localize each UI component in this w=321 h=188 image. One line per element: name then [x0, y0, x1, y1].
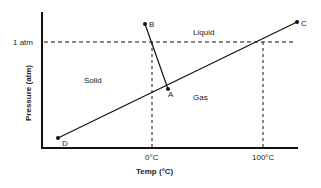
x-axis-label: Temp (°C): [136, 167, 174, 176]
curve-a-b: [145, 24, 168, 89]
point-b: [143, 22, 147, 26]
x-tick-0c: 0°C: [145, 153, 159, 162]
x-tick-100c: 100°C: [252, 153, 275, 162]
point-c: [295, 20, 299, 24]
region-gas: Gas: [193, 93, 208, 102]
point-label-a: A: [168, 90, 174, 99]
region-liquid: Liquid: [193, 28, 214, 37]
point-label-c: C: [301, 19, 307, 28]
phase-diagram: B A C D Solid Liquid Gas 1 atm 0°C 100°C…: [0, 0, 321, 188]
point-label-d: D: [62, 139, 68, 148]
y-tick-1-atm: 1 atm: [13, 38, 33, 47]
point-d: [56, 136, 60, 140]
point-label-b: B: [149, 20, 154, 29]
region-solid: Solid: [84, 76, 102, 85]
y-axis-label: Pressure (atm): [24, 65, 33, 121]
